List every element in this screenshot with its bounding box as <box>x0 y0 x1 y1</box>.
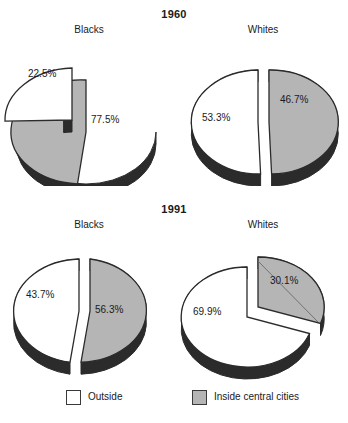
slice-inside-central-cities <box>269 70 338 186</box>
group-label-1960-whites: Whites <box>228 24 298 35</box>
group-label-1991-blacks: Blacks <box>54 219 124 230</box>
pie-chart-figure: 1960 1991 Blacks Whites Blacks Whites 22… <box>0 0 348 423</box>
legend-item-inside-central-cities: Inside central cities <box>192 388 299 406</box>
legend-label-inside-central-cities: Inside central cities <box>214 392 299 402</box>
pie-chart-1960-blacks: 22.5% 77.5% <box>2 36 176 186</box>
pie-chart-1991-blacks: 43.7% 56.3% <box>2 231 176 381</box>
group-label-1960-blacks: Blacks <box>54 24 124 35</box>
year-title-1991: 1991 <box>0 203 348 215</box>
slice-outside <box>14 259 79 374</box>
pie-chart-1960-whites: 53.3% 46.7% <box>174 36 348 186</box>
legend-label-outside: Outside <box>88 392 122 402</box>
slice-inside-central-cities <box>81 259 146 374</box>
pie-chart-1991-whites: 69.9% 30.1% <box>174 231 348 381</box>
legend: Outside Inside central cities <box>0 386 348 410</box>
legend-swatch-outside-icon <box>66 390 81 405</box>
group-label-1991-whites: Whites <box>228 219 298 230</box>
legend-item-outside: Outside <box>66 388 122 406</box>
slice-outside <box>191 70 260 186</box>
legend-swatch-inside-central-cities-icon <box>192 390 207 405</box>
year-title-1960: 1960 <box>0 8 348 20</box>
